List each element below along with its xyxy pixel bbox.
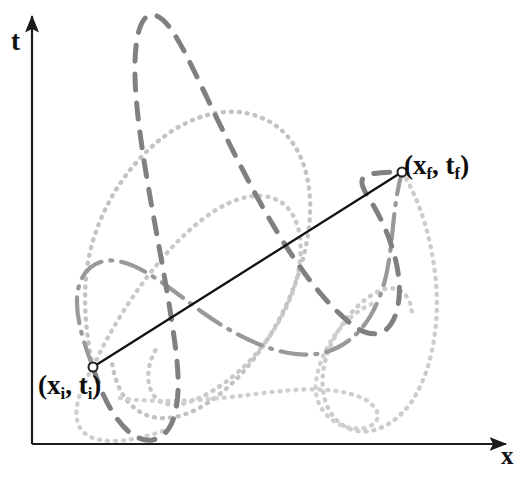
path-dashed [93, 15, 402, 440]
diagram-canvas [0, 0, 529, 477]
final-label-mid: , t [432, 150, 455, 180]
initial-point-label: (xi, ti) [38, 372, 101, 399]
final-label-sub-t: f [455, 164, 461, 183]
initial-label-close: ) [92, 370, 101, 400]
x-axis-label: x [501, 443, 514, 468]
final-point-label: (xf, tf) [404, 152, 469, 179]
final-label-sub-x: f [427, 164, 433, 183]
initial-label-open: (x [38, 370, 61, 400]
t-axis-label: t [11, 28, 20, 55]
final-label-close: ) [460, 150, 469, 180]
alternate-paths-group [76, 15, 436, 441]
initial-label-mid: , t [65, 370, 88, 400]
path-dotted-upper-loop [85, 112, 310, 418]
spacetime-diagram: t x (xf, tf) (xi, ti) [0, 0, 529, 477]
final-label-open: (x [404, 150, 427, 180]
path-dashdot [77, 172, 402, 367]
initial-label-sub-x: i [61, 384, 66, 403]
axes-group [32, 16, 506, 444]
initial-label-sub-t: i [88, 384, 93, 403]
